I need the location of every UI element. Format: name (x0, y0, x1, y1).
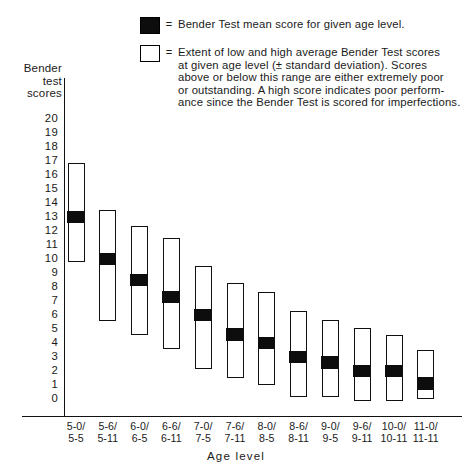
y-tick-label: 2 (24, 364, 58, 376)
x-axis-line (22, 416, 462, 417)
range-bar (68, 163, 85, 262)
legend-range-line-4: or outstanding. A high score indicates p… (178, 84, 460, 97)
y-tick-label: 16 (24, 168, 58, 180)
mean-marker (226, 328, 243, 341)
x-tick-label-line-1: 11-0/ (402, 421, 450, 433)
mean-marker (130, 274, 147, 287)
chart-legend: = Bender Test mean score for given age l… (140, 16, 470, 119)
range-bar (99, 210, 116, 321)
legend-item-mean: = Bender Test mean score for given age l… (140, 16, 470, 34)
y-tick-label: 0 (24, 392, 58, 404)
y-tick-label: 9 (24, 266, 58, 278)
y-tick-label: 7 (24, 294, 58, 306)
range-bar (322, 320, 339, 397)
y-tick-label: 10 (24, 252, 58, 264)
y-tick-label: 15 (24, 182, 58, 194)
y-tick-label: 19 (24, 126, 58, 138)
range-bar (163, 238, 180, 349)
legend-mean-text: Bender Test mean score for given age lev… (178, 16, 405, 31)
range-bar (354, 328, 371, 401)
y-axis-line (64, 78, 65, 416)
y-tick-label: 20 (24, 112, 58, 124)
mean-marker (258, 337, 275, 350)
y-axis-title-line-1: Bender (6, 62, 62, 75)
y-tick-label: 18 (24, 140, 58, 152)
mean-marker (162, 291, 179, 304)
legend-item-range: = Extent of low and high average Bender … (140, 44, 470, 109)
mean-marker (385, 365, 402, 378)
range-bar (131, 226, 148, 335)
y-tick-label: 13 (24, 210, 58, 222)
legend-mean-line-1: Bender Test mean score for given age lev… (178, 18, 405, 31)
range-bar (227, 283, 244, 378)
range-bar (195, 266, 212, 368)
range-bar (258, 292, 275, 386)
y-tick-label: 12 (24, 224, 58, 236)
legend-range-text: Extent of low and high average Bender Te… (178, 44, 460, 109)
range-bar (417, 350, 434, 399)
mean-marker (289, 351, 306, 364)
y-tick-label: 8 (24, 280, 58, 292)
filled-square-icon (140, 17, 160, 34)
x-axis-title: Age level (0, 450, 472, 462)
y-tick-label: 6 (24, 308, 58, 320)
mean-marker (99, 253, 116, 266)
mean-marker (353, 365, 370, 378)
y-tick-label: 1 (24, 378, 58, 390)
y-tick-label: 17 (24, 154, 58, 166)
legend-range-line-5: ance since the Bender Test is scored for… (178, 96, 460, 109)
legend-equals-sign: = (160, 16, 178, 33)
range-bar (386, 335, 403, 401)
y-axis-title-line-3: scores (6, 87, 62, 100)
mean-marker (67, 211, 84, 224)
legend-range-line-2: at given age level (± standard deviation… (178, 59, 460, 72)
x-tick-label-line-2: 11-11 (402, 433, 450, 445)
mean-marker (194, 309, 211, 322)
x-tick-label: 11-0/11-11 (402, 421, 450, 444)
y-tick-label: 14 (24, 196, 58, 208)
open-square-icon (140, 45, 160, 62)
y-tick-label: 3 (24, 350, 58, 362)
y-tick-label: 11 (24, 238, 58, 250)
legend-range-line-1: Extent of low and high average Bender Te… (178, 46, 460, 59)
y-tick-label: 4 (24, 336, 58, 348)
mean-marker (417, 377, 434, 390)
range-bar (290, 311, 307, 396)
legend-equals-sign-2: = (160, 44, 178, 61)
bender-test-chart: = Bender Test mean score for given age l… (0, 0, 472, 476)
y-axis-title: Bender test scores (6, 62, 62, 100)
y-axis-title-line-2: test (6, 75, 62, 88)
legend-range-line-3: above or below this range are either ext… (178, 71, 460, 84)
mean-marker (321, 356, 338, 369)
y-tick-label: 5 (24, 322, 58, 334)
